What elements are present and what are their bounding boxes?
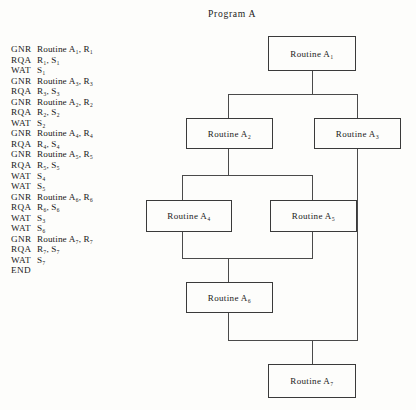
node-routine-a7[interactable]: Routine A₇ [268,364,356,398]
edge-bus-a45-join [182,258,313,259]
code-line: WATS₆ [11,223,93,234]
code-operand: R₂, S₂ [37,107,60,117]
node-label: Routine A₅ [292,211,335,221]
code-line: WATS₇ [11,255,93,266]
code-operand: S₃ [37,213,46,223]
node-label: Routine A₁ [290,49,333,59]
edge-bus-a7-join [228,340,358,341]
code-line: WATS₂ [11,118,93,129]
code-operand: Routine A₃, R₃ [37,76,93,86]
code-opcode: RQA [11,139,37,150]
code-line: RQAR₇, S₇ [11,244,93,255]
code-operand: R₃, S₃ [37,86,60,96]
code-opcode: GNR [11,234,37,245]
edge-bus-to-a5 [312,175,313,201]
code-opcode: WAT [11,118,37,129]
edge-a4-down [182,231,183,259]
code-line: WATS₅ [11,181,93,192]
code-opcode: END [11,265,37,276]
code-opcode: GNR [11,149,37,160]
code-operand: S₁ [37,65,46,75]
code-line: GNRRoutine A₄, R₄ [11,128,93,139]
code-opcode: WAT [11,65,37,76]
node-label: Routine A₆ [208,293,251,303]
code-opcode: GNR [11,97,37,108]
edge-a1-down [312,70,313,95]
code-operand: Routine A₂, R₂ [37,97,93,107]
code-line: GNRRoutine A₃, R₃ [11,76,93,87]
code-line: WATS₁ [11,65,93,76]
code-line: RQAR₄, S₄ [11,139,93,150]
code-operand: Routine A₁, R₁ [37,44,93,54]
node-routine-a4[interactable]: Routine A₄ [146,200,232,232]
code-opcode: RQA [11,107,37,118]
code-line: WATS₃ [11,213,93,224]
code-opcode: GNR [11,192,37,203]
code-operand: R₆, S₆ [37,202,60,212]
node-label: Routine A₃ [336,129,379,139]
code-line: END [11,265,93,276]
node-label: Routine A₂ [208,129,251,139]
node-label: Routine A₄ [167,211,210,221]
code-operand: Routine A₆, R₆ [37,192,93,202]
code-opcode: RQA [11,86,37,97]
edge-bus-to-a2 [228,94,229,119]
code-operand: R₄, S₄ [37,139,60,149]
code-operand: R₇, S₇ [37,244,60,254]
code-line: GNRRoutine A₁, R₁ [11,44,93,55]
edge-bus-a2-split [182,175,313,176]
code-opcode: WAT [11,213,37,224]
code-line: RQAR₅, S₅ [11,160,93,171]
code-opcode: GNR [11,128,37,139]
node-routine-a5[interactable]: Routine A₅ [270,200,357,232]
code-opcode: GNR [11,44,37,55]
code-opcode: WAT [11,255,37,266]
code-operand: S₅ [37,181,46,191]
node-routine-a3[interactable]: Routine A₃ [314,118,401,149]
code-operand: S₆ [37,223,46,233]
node-routine-a2[interactable]: Routine A₂ [186,118,273,149]
code-line: RQAR₆, S₆ [11,202,93,213]
node-routine-a6[interactable]: Routine A₆ [186,282,273,313]
code-line: RQAR₃, S₃ [11,86,93,97]
code-line: RQAR₁, S₁ [11,55,93,66]
chart-title: Program A [208,8,256,19]
code-line: GNRRoutine A₇, R₇ [11,234,93,245]
code-operand: S₂ [37,118,46,128]
edge-bus-to-a7 [312,340,313,364]
edge-a3-down-long [357,148,358,341]
edge-a5-down [312,231,313,259]
code-operand: Routine A₇, R₇ [37,234,93,244]
edge-a2-down [228,148,229,176]
node-label: Routine A₇ [290,376,333,386]
code-opcode: WAT [11,223,37,234]
code-operand: Routine A₄, R₄ [37,128,93,138]
figure-page: GNRRoutine A₁, R₁ RQAR₁, S₁ WATS₁ GNRRou… [0,0,416,410]
code-line: GNRRoutine A₅, R₅ [11,149,93,160]
code-opcode: GNR [11,76,37,87]
code-line: GNRRoutine A₂, R₂ [11,97,93,108]
program-listing: GNRRoutine A₁, R₁ RQAR₁, S₁ WATS₁ GNRRou… [11,44,93,276]
code-operand: S₄ [37,171,46,181]
code-opcode: RQA [11,244,37,255]
code-operand: R₅, S₅ [37,160,60,170]
edge-bus-to-a6 [228,258,229,283]
code-opcode: RQA [11,55,37,66]
edge-a6-down [228,312,229,341]
code-opcode: WAT [11,171,37,182]
code-operand: Routine A₅, R₅ [37,149,93,159]
code-opcode: RQA [11,202,37,213]
code-operand: S₇ [37,255,46,265]
code-line: RQAR₂, S₂ [11,107,93,118]
node-routine-a1[interactable]: Routine A₁ [268,36,356,71]
code-opcode: WAT [11,181,37,192]
code-operand: R₁, S₁ [37,55,60,65]
edge-bus-to-a3 [357,94,358,119]
code-line: GNRRoutine A₆, R₆ [11,192,93,203]
code-opcode: RQA [11,160,37,171]
code-line: WATS₄ [11,171,93,182]
edge-bus-a1-split [228,94,358,95]
edge-bus-to-a4 [182,175,183,201]
